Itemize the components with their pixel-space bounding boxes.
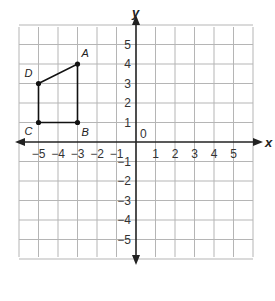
x-tick-label: −5 [32, 147, 46, 161]
x-tick-label: 4 [211, 147, 218, 161]
point-a [75, 61, 80, 66]
point-label-b: B [82, 126, 89, 138]
coordinate-plane: xy−5−4−3−2−11234554321−1−2−3−4−50ABCD [0, 0, 275, 301]
x-tick-label: −3 [71, 147, 85, 161]
y-tick-label: 3 [124, 77, 131, 91]
y-axis-label: y [131, 5, 140, 20]
y-tick-label: 1 [124, 116, 131, 130]
x-tick-label: −4 [51, 147, 65, 161]
x-tick-label: 5 [230, 147, 237, 161]
origin-label: 0 [140, 127, 147, 141]
point-label-c: C [25, 125, 33, 137]
y-tick-label: 2 [124, 96, 131, 110]
point-c [36, 120, 41, 125]
y-tick-label: −2 [117, 174, 131, 188]
x-tick-label: 1 [152, 147, 159, 161]
x-axis-label: x [264, 135, 273, 150]
y-axis-arrow-down-icon [132, 255, 140, 265]
point-label-a: A [81, 47, 89, 59]
y-tick-label: 5 [124, 38, 131, 52]
x-tick-label: 3 [191, 147, 198, 161]
x-tick-label: 2 [172, 147, 179, 161]
x-axis-arrow-right-icon [253, 138, 263, 146]
x-axis-arrow-left-icon [15, 138, 25, 146]
y-tick-label: −5 [117, 233, 131, 247]
x-tick-label: −2 [90, 147, 104, 161]
y-tick-label: −3 [117, 194, 131, 208]
point-b [75, 120, 80, 125]
y-tick-label: −4 [117, 213, 131, 227]
y-tick-label: 4 [124, 57, 131, 71]
y-tick-label: −1 [117, 155, 131, 169]
point-d [36, 81, 41, 86]
point-label-d: D [25, 67, 33, 79]
